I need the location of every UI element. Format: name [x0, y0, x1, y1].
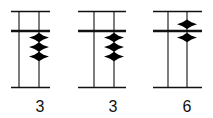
- abacus-value-label-2: 3: [103, 98, 123, 116]
- abacus-2: [78, 12, 126, 88]
- abacus-1: [11, 12, 50, 88]
- abacus-value-label-1: 3: [30, 98, 50, 116]
- bead: [29, 52, 49, 62]
- bead: [104, 52, 124, 62]
- bead: [29, 33, 49, 43]
- bead: [29, 42, 49, 52]
- bead: [177, 33, 197, 43]
- bead: [104, 42, 124, 52]
- bead: [104, 33, 124, 43]
- abacus-value-label-3: 6: [177, 98, 197, 116]
- bead: [177, 20, 197, 30]
- abacus-3: [153, 12, 202, 88]
